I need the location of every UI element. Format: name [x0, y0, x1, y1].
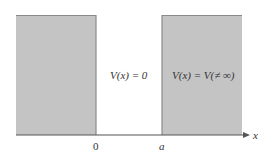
x-axis-arrowhead-icon — [243, 132, 250, 138]
tick-label-zero: 0 — [93, 140, 99, 152]
well-potential-label: V(x) = 0 — [110, 69, 148, 82]
left-barrier-region — [16, 15, 96, 135]
x-axis-label: x — [252, 129, 258, 141]
potential-well-diagram: V(x) = 0 V(x) = V(≠ ∞) x 0 a — [0, 0, 272, 157]
barrier-potential-label: V(x) = V(≠ ∞) — [172, 69, 235, 82]
tick-label-a: a — [159, 140, 165, 152]
